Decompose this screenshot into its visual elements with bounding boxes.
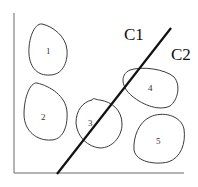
- cluster-3-label: 3: [88, 118, 93, 128]
- cluster-diagram: 1 2 3 4 5 C1 C2: [0, 0, 198, 187]
- cluster-2-label: 2: [41, 112, 46, 122]
- decision-boundary-line: [57, 28, 171, 174]
- region-label-c1: C1: [124, 25, 144, 44]
- cluster-1-label: 1: [46, 46, 51, 56]
- region-label-c2: C2: [171, 45, 191, 64]
- cluster-5-label: 5: [156, 136, 161, 146]
- cluster-4-label: 4: [148, 83, 153, 93]
- cluster-2-outline: [24, 83, 67, 140]
